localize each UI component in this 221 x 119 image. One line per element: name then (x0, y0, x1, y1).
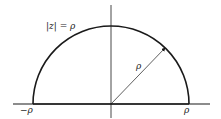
positive-rho-label: ρ (184, 106, 189, 115)
radius-arrow (111, 48, 165, 104)
radius-label: ρ (136, 62, 141, 71)
circle-equation-label: |z| = ρ (46, 22, 75, 31)
diagram-svg (0, 0, 221, 119)
negative-rho-label: −ρ (20, 106, 33, 115)
semicircle-diagram: |z| = ρ −ρ ρ ρ (0, 0, 221, 119)
